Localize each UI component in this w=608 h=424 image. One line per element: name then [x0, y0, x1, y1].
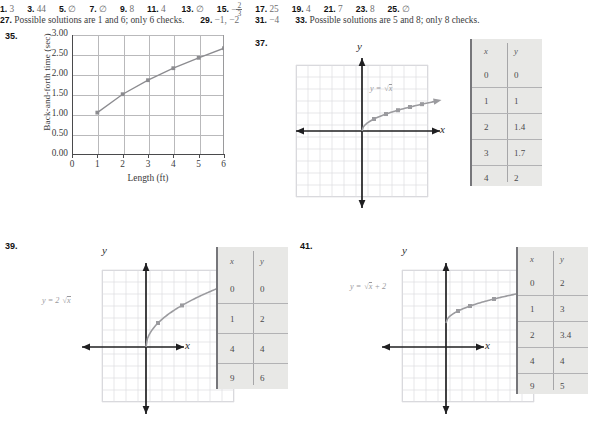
graph-39-y-axis-letter: y: [102, 244, 107, 256]
data-point-marker: [180, 303, 184, 307]
arrow-down-icon: [443, 406, 450, 414]
table-cell-x: 9: [530, 381, 535, 391]
table-row: 1 1: [472, 87, 542, 113]
answer-number: 23.: [356, 4, 368, 14]
answer-value: Possible solutions are 1 and 6; only 6 c…: [14, 15, 184, 25]
table-cell-y: 5: [560, 381, 565, 391]
table-cell-x: 4: [484, 173, 489, 183]
arrow-down-icon: [143, 406, 150, 414]
data-point-marker: [156, 321, 160, 325]
table-cell-x: 1: [230, 314, 235, 324]
data-point-marker: [396, 108, 400, 112]
data-point-marker: [420, 102, 424, 106]
problem-number-35: 35.: [5, 31, 18, 41]
arrow-left-icon: [382, 344, 390, 351]
answer-value: Possible solutions are 5 and 8; only 8 c…: [310, 15, 480, 25]
chart-35-x-tick: 1: [95, 159, 100, 169]
table-cell-y: 2: [514, 173, 519, 183]
equation-lhs: y = 2: [42, 296, 59, 305]
answer-item-7: 7. ∅: [89, 4, 107, 15]
graph-37-equation-label: y = √x: [370, 84, 392, 93]
table-header-row: x y: [518, 247, 588, 270]
answer-item-21: 21. 7: [324, 4, 343, 15]
answer-number: 15.: [217, 4, 229, 14]
sqrt-icon: √x: [61, 296, 70, 305]
table-row: 0 2: [518, 270, 588, 295]
answer-item-25: 25. ∅: [388, 4, 410, 15]
chart-35-x-tick: 3: [146, 159, 151, 169]
chart-35-x-tick: 2: [120, 159, 125, 169]
table-cell-x: 0: [484, 70, 489, 80]
data-point-marker: [408, 105, 412, 109]
table-header-row: x y: [472, 39, 542, 62]
table-cell-y: 4: [260, 344, 265, 354]
graph-37-canvas: [288, 50, 446, 215]
answer-value: ∅: [196, 4, 204, 14]
table-row: 0 0: [472, 62, 542, 87]
answer-number: 7.: [89, 4, 96, 14]
table-header-row: x y: [218, 247, 288, 275]
chart-35-y-tick: 3.00: [52, 28, 68, 38]
answer-value: 8: [129, 4, 134, 14]
table-row: 2 1.4: [472, 113, 542, 139]
graph-39: y x y = 2 √x: [26, 252, 191, 420]
answer-item-1: 1. 3: [0, 4, 14, 15]
table-row: 1 3: [518, 295, 588, 321]
table-row: 9 5: [518, 373, 588, 398]
graph-41-canvas: [326, 252, 491, 420]
table-cell-y: 3: [560, 304, 565, 314]
table-cell-y: 2: [560, 278, 565, 288]
answer-value: 4: [161, 4, 166, 14]
answer-number: 1.: [0, 4, 7, 14]
chart-35-pendulum: Back-and-forth time (sec) 0.00 0.50 1.00…: [26, 33, 231, 188]
chart-35-data-point: [197, 56, 201, 60]
table-cell-y: 3.4: [560, 330, 571, 340]
graph-41-y-axis-letter: y: [402, 244, 407, 256]
answer-item-31: 31. −4: [255, 15, 279, 26]
table-header-y: y: [514, 46, 518, 56]
equation-lhs: y =: [370, 84, 381, 93]
table-row: 4 4: [518, 347, 588, 373]
table-row: 9 6: [218, 363, 288, 392]
chart-35-x-tick: 0: [70, 159, 75, 169]
data-point-marker: [492, 297, 496, 301]
table-cell-x: 0: [230, 284, 235, 294]
answer-item-13: 13. ∅: [182, 4, 204, 15]
x-tick-mark: [199, 154, 200, 158]
chart-35-data-point: [222, 46, 224, 50]
arrow-up-icon: [359, 58, 366, 66]
table-row: 4 4: [218, 333, 288, 363]
chart-35-y-tick: 2.50: [52, 48, 68, 58]
chart-35-y-tick: 1.50: [52, 88, 68, 98]
answer-value: 8: [370, 4, 375, 14]
table-cell-y: 0: [260, 284, 265, 294]
chart-35-x-tick: 5: [196, 159, 201, 169]
sqrt-icon: √x: [363, 282, 372, 291]
equation-radicand: x: [67, 296, 71, 305]
table-header-x: x: [484, 46, 488, 56]
answer-number: 21.: [324, 4, 336, 14]
table-header-y: y: [560, 254, 564, 264]
table-cell-x: 0: [530, 278, 535, 288]
answer-number: 25.: [388, 4, 400, 14]
chart-35-y-tick-group: 0.00 0.50 1.00 1.50 2.00 2.50 3.00: [34, 33, 68, 155]
table-header-x: x: [230, 256, 234, 266]
answer-number: 9.: [120, 4, 127, 14]
x-tick-mark: [173, 154, 174, 158]
answer-item-5: 5. ∅: [59, 4, 77, 15]
table-header-x: x: [530, 254, 534, 264]
data-point-marker: [468, 304, 472, 308]
graph-37-x-axis-letter: x: [440, 123, 445, 135]
graph-37: y x y = √x: [288, 50, 446, 215]
answer-item-29: 29. −1, −2: [200, 15, 239, 26]
answer-item-23: 23. 8: [356, 4, 375, 15]
table-cell-x: 9: [230, 373, 235, 383]
arrow-right-icon: [432, 128, 440, 135]
x-tick-mark: [123, 154, 124, 158]
table-row: 4 2: [472, 165, 542, 190]
graph-39-canvas: [26, 252, 191, 420]
table-cell-x: 4: [230, 344, 235, 354]
table-row: 2 3.4: [518, 321, 588, 347]
x-tick-mark: [224, 154, 225, 158]
table-cell-x: 2: [530, 330, 535, 340]
